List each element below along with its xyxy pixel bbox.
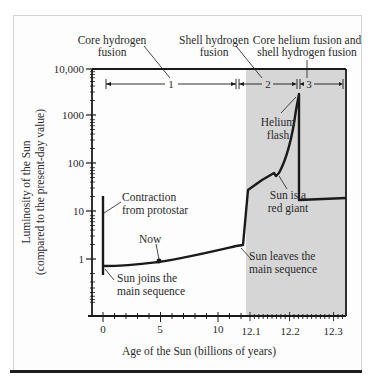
phase-1-label-line2: fusion bbox=[98, 46, 127, 58]
annotation-helium-flash-line2: flash bbox=[267, 129, 290, 141]
y-tick-10000: 10,000 bbox=[54, 63, 85, 75]
x-tick-10: 10 bbox=[213, 323, 225, 335]
annotation-now: Now bbox=[139, 233, 162, 245]
annotation-red-giant-line2: red giant bbox=[268, 202, 309, 215]
annotation-contraction-line2: from protostar bbox=[122, 204, 188, 217]
annotation-helium-flash-line1: Helium bbox=[261, 116, 296, 128]
phase-1-number: 1 bbox=[168, 78, 174, 90]
y-tick-10: 10 bbox=[73, 205, 85, 217]
x-tick-12-1: 12.1 bbox=[241, 325, 260, 337]
y-ticks bbox=[86, 69, 96, 259]
luminosity-chart: 10,000 1000 100 10 1 bbox=[0, 0, 376, 376]
x-tick-12-3: 12.3 bbox=[323, 325, 343, 337]
phase-3-number: 3 bbox=[306, 78, 312, 90]
annotation-joins-line1: Sun joins the bbox=[117, 272, 177, 285]
phase-2-label-line2: fusion bbox=[200, 46, 229, 58]
phase-2-number: 2 bbox=[265, 78, 271, 90]
y-tick-1: 1 bbox=[79, 253, 85, 265]
y-tick-labels: 10,000 1000 100 10 1 bbox=[54, 63, 85, 265]
y-axis-label: Luminosity of the Sun (compared to the p… bbox=[20, 109, 47, 275]
x-tick-0: 0 bbox=[100, 323, 106, 335]
annotation-leaves-line1: Sun leaves the bbox=[249, 250, 315, 262]
y-axis-label-line2: (compared to the present-day value) bbox=[34, 109, 47, 275]
x-tick-5: 5 bbox=[157, 323, 163, 335]
phase-3-label-line2: shell hydrogen fusion bbox=[257, 46, 357, 59]
phase-3-label-line1: Core helium fusion and bbox=[253, 34, 362, 46]
annotation-joins-line2: main sequence bbox=[117, 285, 185, 298]
annotation-red-giant-line1: Sun is a bbox=[270, 189, 306, 201]
annotation-contraction-line1: Contraction bbox=[122, 191, 177, 203]
now-marker bbox=[157, 259, 162, 264]
y-axis-label-line1: Luminosity of the Sun bbox=[20, 140, 33, 243]
y-tick-1000: 1000 bbox=[62, 109, 85, 121]
x-axis-label: Age of the Sun (billions of years) bbox=[122, 345, 276, 358]
annotation-leaves-line2: main sequence bbox=[249, 263, 317, 276]
x-ticks-main bbox=[103, 312, 241, 322]
y-tick-100: 100 bbox=[68, 157, 85, 169]
x-tick-12-2: 12.2 bbox=[280, 325, 299, 337]
phase-labels: Core hydrogen fusion Shell hydrogen fusi… bbox=[78, 34, 362, 59]
x-tick-labels: 0 5 10 12.1 12.2 12.3 bbox=[100, 323, 343, 337]
